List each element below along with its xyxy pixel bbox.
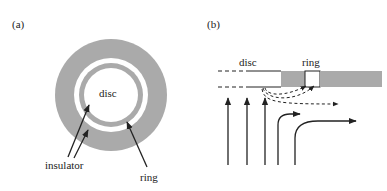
panel-b: (b) disc ring xyxy=(207,18,382,165)
insulator-block xyxy=(281,71,305,87)
outer-block xyxy=(320,71,382,87)
ring-label: ring xyxy=(140,171,158,183)
ring-label-b: ring xyxy=(302,56,320,68)
insulator-label: insulator xyxy=(45,159,84,171)
panel-a: (a) disc insulator ring xyxy=(12,18,167,183)
dashed-flow-3 xyxy=(262,89,338,104)
flow-arrow-curved-2 xyxy=(295,121,356,165)
disc-label: disc xyxy=(99,87,117,99)
panel-a-label: (a) xyxy=(12,18,25,31)
electrode-cross-section xyxy=(218,71,382,87)
dashed-flow-2 xyxy=(263,86,314,98)
flow-arrow-curved-1 xyxy=(278,114,300,165)
figure: (a) disc insulator ring (b) disc ring xyxy=(0,0,387,191)
panel-b-label: (b) xyxy=(207,18,220,31)
disc-label-b: disc xyxy=(239,56,257,68)
ring-block xyxy=(305,71,320,87)
